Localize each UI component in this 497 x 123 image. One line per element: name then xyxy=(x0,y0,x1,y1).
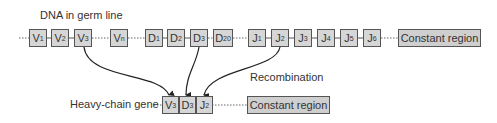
segment-j2: J2 xyxy=(271,29,289,47)
recombination-label: Recombination xyxy=(250,71,323,83)
segment-j6: J6 xyxy=(363,29,381,47)
germline-constant-region: Constant region xyxy=(398,29,481,47)
heavy-segment-j2: J2 xyxy=(196,96,213,114)
heavy-chain-constant-region: Constant region xyxy=(247,96,330,114)
heavy-segment-v3: V3 xyxy=(162,96,179,114)
segment-v3: V3 xyxy=(74,29,92,47)
germline-title: DNA in germ line xyxy=(40,9,123,21)
segment-j1: J1 xyxy=(248,29,266,47)
segment-v2: V2 xyxy=(51,29,69,47)
segment-j4: J4 xyxy=(317,29,335,47)
heavy-chain-label: Heavy-chain gene xyxy=(70,98,159,110)
segment-d3: D3 xyxy=(190,29,208,47)
segment-d2: D2 xyxy=(167,29,185,47)
segment-d20: D20 xyxy=(213,29,233,47)
segment-j5: J5 xyxy=(340,29,358,47)
heavy-segment-d3: D3 xyxy=(179,96,196,114)
segment-vn: Vn xyxy=(110,29,128,47)
segment-d1: D1 xyxy=(145,29,163,47)
segment-j3: J3 xyxy=(294,29,312,47)
segment-v1: V1 xyxy=(29,29,47,47)
